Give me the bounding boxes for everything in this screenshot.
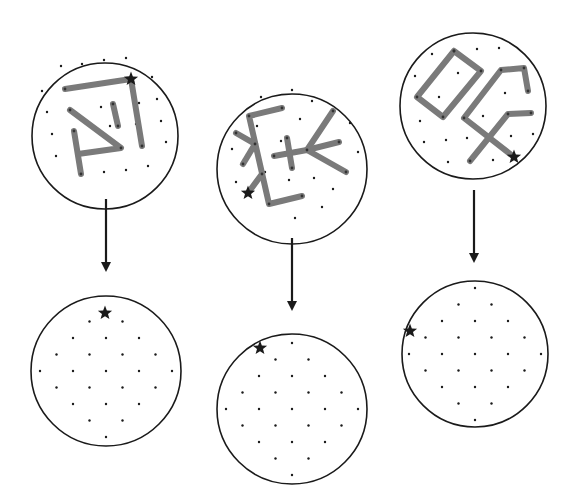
lattice-dot — [39, 370, 41, 372]
lattice-dot — [457, 72, 459, 74]
lattice-dot — [151, 76, 153, 78]
lattice-circle — [402, 281, 548, 427]
stroke-node-dot — [141, 145, 144, 148]
lattice-dot — [105, 370, 107, 372]
figure-stage: Three star-pattern (constellation) circl… — [0, 0, 578, 498]
lattice-dot — [523, 336, 525, 338]
constellation-circle — [217, 89, 367, 244]
lattice-dot — [490, 369, 492, 371]
lattice-dot — [260, 96, 262, 98]
lattice-dot — [154, 386, 156, 388]
stroke-node-dot — [73, 130, 76, 133]
panel-3 — [400, 33, 548, 427]
stroke-node-dot — [261, 173, 264, 176]
diagram-canvas — [0, 0, 578, 498]
lattice-dot — [258, 375, 260, 377]
lattice-dot — [294, 217, 296, 219]
lattice-dot — [72, 403, 74, 405]
lattice-dot — [88, 419, 90, 421]
lattice-dot — [138, 337, 140, 339]
stroke-node-dot — [306, 149, 309, 152]
stroke-node-dot — [442, 116, 445, 119]
lattice-dot — [307, 457, 309, 459]
lattice-dot — [138, 403, 140, 405]
lattice-dot — [55, 353, 57, 355]
lattice-dot — [72, 370, 74, 372]
panel-1 — [31, 57, 181, 446]
stroke-node-dot — [301, 195, 304, 198]
stroke-node-dot — [286, 137, 289, 140]
lattice-dot — [274, 358, 276, 360]
stroke-node-dot — [463, 117, 466, 120]
stroke-node-dot — [332, 110, 335, 113]
lattice-dot — [457, 336, 459, 338]
stroke-node-dot — [453, 50, 456, 53]
stroke-node-dot — [527, 90, 530, 93]
stroke-node-dot — [242, 163, 245, 166]
lattice-dot — [423, 141, 425, 143]
lattice-dot — [55, 386, 57, 388]
lattice-dot — [121, 320, 123, 322]
lattice-dot — [510, 135, 512, 137]
lattice-dot — [125, 57, 127, 59]
lattice-dot — [490, 303, 492, 305]
lattice-dot — [424, 369, 426, 371]
constellation-circle — [400, 33, 546, 179]
lattice-dot — [445, 139, 447, 141]
lattice-dot — [457, 303, 459, 305]
lattice-dot — [357, 408, 359, 410]
lattice-dot — [324, 441, 326, 443]
lattice-dot — [307, 424, 309, 426]
lattice-dot — [105, 337, 107, 339]
stroke-node-dot — [416, 96, 419, 99]
lattice-dot — [105, 403, 107, 405]
lattice-dot — [466, 137, 468, 139]
lattice-dot — [532, 133, 534, 135]
lattice-dot — [225, 408, 227, 410]
lattice-dot — [121, 353, 123, 355]
lattice-dot — [441, 320, 443, 322]
lattice-dot — [274, 424, 276, 426]
lattice-dot — [324, 375, 326, 377]
lattice-dot — [241, 391, 243, 393]
lattice-dot — [299, 118, 301, 120]
lattice-dot — [55, 155, 57, 157]
lattice-dot — [307, 391, 309, 393]
stroke-node-dot — [480, 70, 483, 73]
stroke-node-dot — [273, 155, 276, 158]
lattice-dot — [280, 140, 282, 142]
stroke-node-dot — [69, 109, 72, 112]
lattice-dot — [490, 336, 492, 338]
stroke-node-dot — [112, 103, 115, 106]
lattice-dot — [307, 358, 309, 360]
lattice-dot — [88, 353, 90, 355]
panel-2 — [217, 89, 367, 484]
lattice-dot — [100, 106, 102, 108]
lattice-dot — [154, 353, 156, 355]
lattice-dot — [332, 188, 334, 190]
lattice-dot — [498, 47, 500, 49]
stroke-node-dot — [345, 171, 348, 174]
lattice-dot — [438, 96, 440, 98]
lattice-dot — [291, 474, 293, 476]
lattice-dot — [492, 159, 494, 161]
lattice-dot — [288, 179, 290, 181]
lattice-dot — [523, 369, 525, 371]
lattice-dot — [258, 408, 260, 410]
lattice-dot — [138, 102, 140, 104]
lattice-dot — [474, 419, 476, 421]
lattice-dot — [474, 287, 476, 289]
arrow-down-icon — [287, 301, 297, 311]
lattice-dot — [291, 342, 293, 344]
lattice-dot — [457, 402, 459, 404]
stroke-node-dot — [254, 143, 257, 146]
lattice-dot — [291, 408, 293, 410]
stroke-node-dot — [64, 88, 67, 91]
lattice-dot — [357, 151, 359, 153]
lattice-dot — [60, 65, 62, 67]
stroke-node-dot — [120, 147, 123, 150]
stroke-node-dot — [80, 173, 83, 176]
lattice-dot — [340, 391, 342, 393]
lattice-dot — [51, 133, 53, 135]
lattice-dot — [474, 386, 476, 388]
